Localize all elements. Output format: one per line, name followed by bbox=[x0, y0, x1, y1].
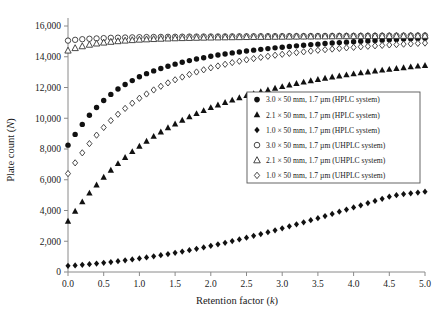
data-point-5-47 bbox=[401, 41, 406, 47]
data-point-2-43 bbox=[372, 198, 377, 204]
axis-title-close: ) bbox=[275, 295, 279, 307]
y-tick-label: 10,000 bbox=[35, 114, 61, 124]
data-point-5-18 bbox=[194, 69, 199, 75]
data-point-2-32 bbox=[294, 221, 299, 227]
data-point-1-7 bbox=[115, 160, 121, 166]
data-point-1-0 bbox=[65, 218, 71, 224]
data-point-1-19 bbox=[201, 107, 207, 113]
y-tick-label: 6,000 bbox=[40, 175, 62, 185]
data-point-0-6 bbox=[108, 92, 113, 97]
data-point-1-30 bbox=[279, 83, 285, 89]
data-point-5-20 bbox=[208, 65, 213, 71]
data-point-1-35 bbox=[315, 76, 321, 82]
data-point-1-8 bbox=[122, 154, 128, 160]
data-point-5-33 bbox=[301, 49, 306, 55]
data-point-2-14 bbox=[165, 251, 170, 257]
data-point-1-34 bbox=[308, 77, 314, 83]
data-point-4-0 bbox=[65, 47, 71, 53]
data-point-2-25 bbox=[244, 235, 249, 241]
data-point-1-22 bbox=[222, 99, 228, 105]
data-point-0-22 bbox=[222, 51, 227, 56]
data-point-5-25 bbox=[244, 57, 249, 63]
data-point-2-48 bbox=[408, 190, 413, 196]
series-2 bbox=[65, 189, 427, 269]
y-tick-label: 2,000 bbox=[40, 237, 62, 247]
data-point-0-30 bbox=[279, 45, 284, 50]
data-point-2-12 bbox=[151, 253, 156, 259]
data-point-2-3 bbox=[87, 261, 92, 267]
data-point-2-22 bbox=[223, 240, 228, 246]
data-point-5-28 bbox=[265, 53, 270, 59]
data-point-5-23 bbox=[230, 59, 235, 65]
data-point-5-40 bbox=[351, 44, 356, 50]
data-point-legend-3 bbox=[254, 142, 260, 148]
data-point-0-20 bbox=[208, 54, 213, 59]
data-point-2-40 bbox=[351, 204, 356, 210]
data-point-1-24 bbox=[236, 94, 242, 100]
data-point-2-21 bbox=[215, 241, 220, 247]
data-point-0-31 bbox=[287, 44, 292, 49]
data-point-5-35 bbox=[315, 47, 320, 53]
legend-label: 2.1 × 50 mm, 1.7 µm (HPLC system) bbox=[266, 111, 380, 120]
data-point-2-41 bbox=[358, 202, 363, 208]
data-point-5-34 bbox=[308, 48, 313, 54]
data-point-1-50 bbox=[422, 62, 428, 68]
data-point-2-18 bbox=[194, 246, 199, 252]
data-point-2-9 bbox=[130, 256, 135, 262]
data-point-0-2 bbox=[80, 122, 85, 127]
data-point-1-47 bbox=[400, 64, 406, 70]
data-point-0-0 bbox=[65, 142, 70, 147]
legend-entry-1: 2.1 × 50 mm, 1.7 µm (HPLC system) bbox=[254, 111, 380, 120]
data-point-0-18 bbox=[194, 56, 199, 61]
data-point-2-5 bbox=[101, 260, 106, 266]
data-point-0-4 bbox=[94, 105, 99, 110]
data-point-5-36 bbox=[322, 47, 327, 53]
data-point-1-41 bbox=[358, 69, 364, 75]
data-point-1-1 bbox=[72, 208, 78, 214]
data-point-1-40 bbox=[350, 70, 356, 76]
legend-entry-2: 1.0 × 50 mm, 1.7 µm (HPLC system) bbox=[254, 126, 380, 135]
data-point-5-42 bbox=[365, 43, 370, 49]
x-tick-label: 4.0 bbox=[348, 279, 360, 289]
data-point-5-15 bbox=[173, 77, 178, 83]
x-axis-title: Retention factor (k) bbox=[196, 295, 279, 307]
data-point-1-5 bbox=[101, 174, 107, 180]
data-point-5-49 bbox=[415, 40, 420, 46]
data-point-1-32 bbox=[293, 80, 299, 86]
data-point-2-20 bbox=[208, 243, 213, 249]
data-point-1-48 bbox=[408, 63, 414, 69]
data-point-2-36 bbox=[322, 213, 327, 219]
data-point-5-0 bbox=[65, 170, 70, 176]
legend-entry-5: 1.0 × 50 mm, 1.7 µm (UHPLC system) bbox=[254, 171, 385, 180]
x-tick-label: 3.0 bbox=[276, 279, 288, 289]
data-point-1-49 bbox=[415, 63, 421, 69]
data-point-0-15 bbox=[172, 61, 177, 66]
data-point-0-14 bbox=[165, 64, 170, 69]
data-point-5-19 bbox=[201, 67, 206, 73]
data-point-0-11 bbox=[144, 71, 149, 76]
data-point-2-49 bbox=[415, 189, 420, 195]
data-point-3-1 bbox=[72, 37, 77, 42]
data-point-2-45 bbox=[387, 194, 392, 200]
data-point-5-30 bbox=[280, 51, 285, 57]
data-point-5-43 bbox=[372, 43, 377, 49]
chart-figure: 02,0004,0006,0008,00010,00012,00014,0001… bbox=[0, 0, 448, 317]
data-point-5-17 bbox=[187, 71, 192, 77]
data-point-2-47 bbox=[401, 191, 406, 197]
data-point-5-50 bbox=[422, 40, 427, 46]
data-point-2-7 bbox=[115, 258, 120, 264]
data-point-0-7 bbox=[115, 86, 120, 91]
data-point-0-34 bbox=[308, 42, 313, 47]
data-point-5-6 bbox=[108, 117, 113, 123]
data-point-0-33 bbox=[301, 43, 306, 48]
data-point-1-4 bbox=[93, 182, 99, 188]
data-point-5-26 bbox=[251, 55, 256, 61]
data-point-5-32 bbox=[294, 49, 299, 55]
data-point-5-29 bbox=[273, 52, 278, 58]
y-tick-label: 12,000 bbox=[35, 83, 61, 93]
data-point-2-50 bbox=[422, 189, 427, 195]
y-tick-label: 16,000 bbox=[35, 21, 61, 31]
data-point-1-39 bbox=[343, 71, 349, 77]
data-point-1-21 bbox=[215, 102, 221, 108]
data-point-2-34 bbox=[308, 217, 313, 223]
